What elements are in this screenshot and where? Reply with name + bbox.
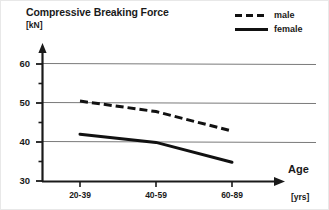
gridline-60 <box>42 64 316 65</box>
y-tick-label-60: 60 <box>8 59 30 69</box>
x-axis-unit-label: [yrs] <box>291 192 309 202</box>
y-tick-label-30: 30 <box>8 176 30 186</box>
x-axis-arrow-icon <box>274 177 285 186</box>
x-tick-label-1: 40-59 <box>130 190 182 200</box>
x-axis-title: Age <box>288 163 309 175</box>
x-tick-label-2: 60-89 <box>206 190 258 200</box>
gridline-40 <box>42 142 316 143</box>
y-tick-label-50: 50 <box>8 98 30 108</box>
series-line-male <box>80 101 232 131</box>
plot-area <box>0 0 329 210</box>
x-axis <box>42 177 285 187</box>
y-tick-label-40: 40 <box>8 137 30 147</box>
y-axis-arrow-icon <box>38 43 46 53</box>
x-tick-label-0: 20-39 <box>54 190 106 200</box>
chart-figure: Compressive Breaking Force [kN] male fem… <box>0 0 329 210</box>
series-line-female <box>80 134 232 162</box>
gridlines <box>42 64 316 143</box>
